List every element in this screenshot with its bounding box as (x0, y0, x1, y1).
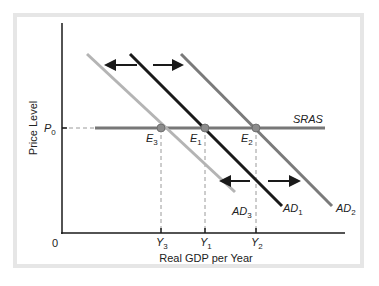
p0-label: P0 (44, 122, 56, 137)
origin-label: 0 (52, 237, 58, 249)
x-axis-label: Real GDP per Year (159, 252, 253, 264)
equilibrium-point-e2 (252, 124, 260, 132)
y1-label: Y1 (200, 236, 212, 251)
e2-label: E2 (241, 132, 253, 147)
y-axis-label: Price Level (27, 101, 39, 155)
equilibrium-point-e3 (157, 124, 165, 132)
y3-label: Y3 (156, 236, 168, 251)
sras-label: SRAS (293, 113, 324, 125)
e1-label: E1 (190, 132, 202, 147)
ad3-label: AD3 (231, 205, 252, 220)
y2-label: Y2 (251, 236, 263, 251)
equilibrium-point-e1 (201, 124, 209, 132)
ad-sras-diagram: Price Level Real GDP per Year 0 P0 SRAS … (0, 0, 379, 286)
e3-label: E3 (146, 132, 158, 147)
ad1-label: AD1 (282, 202, 303, 217)
ad2-label: AD2 (335, 202, 356, 217)
